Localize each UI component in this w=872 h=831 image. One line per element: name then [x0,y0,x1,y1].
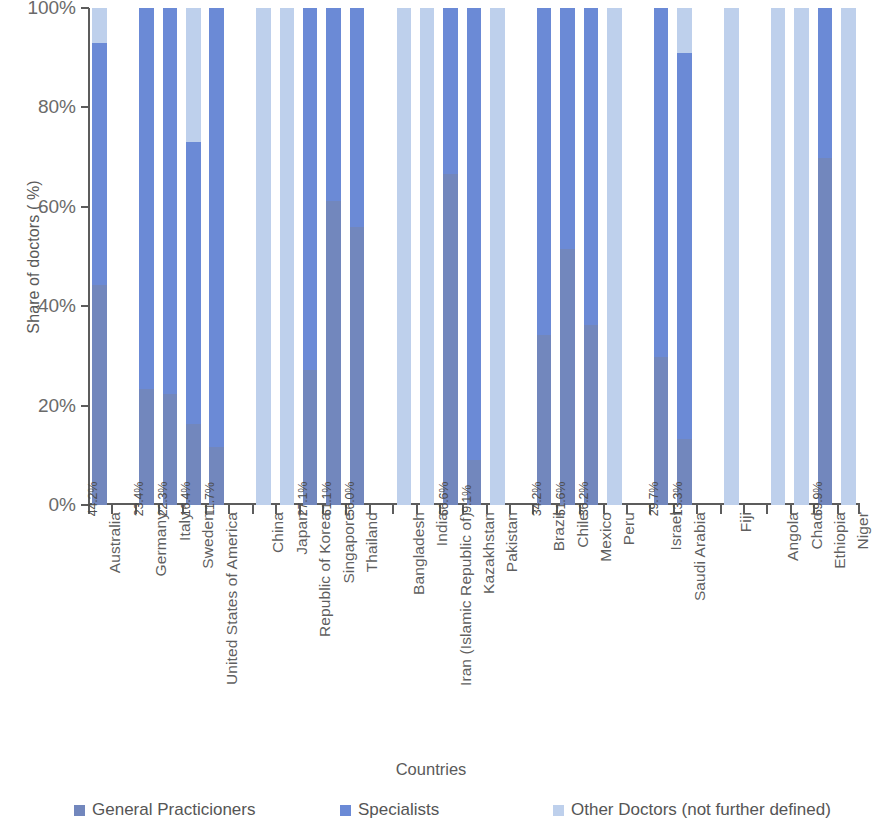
x-axis-tick-label: Chad [808,512,826,549]
bar-segment-gp[interactable] [326,201,341,505]
bar-stack[interactable] [303,8,318,505]
bar-segment-ot[interactable] [397,8,412,505]
bar-segment-gp[interactable] [163,394,178,505]
bar-stack[interactable] [560,8,575,505]
y-axis-tick [81,7,89,9]
bar-segment-gp[interactable] [92,285,107,505]
bar-segment-sp[interactable] [443,8,458,174]
x-axis-tick-label: Brazil [550,512,568,551]
legend-item[interactable]: Specialists [340,800,439,820]
y-axis-title: Share of doctors ( %) [25,127,43,387]
x-axis-tick-label: Ethiopia [831,512,849,569]
bar-segment-gp[interactable] [467,460,482,505]
legend-label: Specialists [358,800,439,820]
bar-segment-gp[interactable] [818,158,833,505]
bar-segment-gp[interactable] [654,357,669,505]
plot-inner: 0%20%40%60%80%100%44.2%23.4%22.3%16.4%11… [88,8,860,505]
bar-stack[interactable] [841,8,856,505]
bar-stack[interactable] [490,8,505,505]
bar-segment-gp[interactable] [209,447,224,505]
y-axis-tick [81,405,89,407]
x-axis-tick-label: India [433,512,451,546]
bar-segment-gp[interactable] [350,227,365,505]
bar-segment-ot[interactable] [92,8,107,43]
bar-segment-gp[interactable] [677,439,692,505]
bar-stack[interactable] [467,8,482,505]
bar-segment-gp[interactable] [560,249,575,505]
x-axis-title: Countries [0,760,862,779]
y-axis-tick [81,106,89,108]
x-axis-tick-label: Pakistan [503,512,521,572]
bar-segment-sp[interactable] [350,8,365,227]
bar-segment-sp[interactable] [303,8,318,370]
bar-segment-gp[interactable] [537,335,552,505]
bar-segment-sp[interactable] [209,8,224,447]
bar-segment-sp[interactable] [326,8,341,201]
bar-stack[interactable] [818,8,833,505]
x-axis-tick-label: Niger [854,512,872,550]
bar-segment-ot[interactable] [280,8,295,505]
bar-stack[interactable] [397,8,412,505]
legend-item[interactable]: Other Doctors (not further defined) [553,800,831,820]
x-axis-tick-label: Bangladesh [410,512,428,595]
bar-segment-ot[interactable] [841,8,856,505]
bar-segment-sp[interactable] [560,8,575,249]
legend-label: General Practicioners [92,800,255,820]
x-axis-tick-label: Saudi Arabia [691,512,709,601]
x-axis-tick-label: Japan [293,512,311,555]
bar-stack[interactable] [92,8,107,505]
bar-segment-gp[interactable] [303,370,318,505]
bar-segment-sp[interactable] [163,8,178,394]
bar-stack[interactable] [186,8,201,505]
bar-segment-sp[interactable] [139,8,154,389]
bar-segment-gp[interactable] [584,325,599,505]
bar-segment-sp[interactable] [818,8,833,158]
legend-item[interactable]: General Practicioners [74,800,255,820]
bar-segment-ot[interactable] [256,8,271,505]
bar-stack[interactable] [677,8,692,505]
bar-stack[interactable] [163,8,178,505]
x-axis-tick-label: Iran (Islamic Republic of) [457,512,475,686]
bar-stack[interactable] [794,8,809,505]
y-axis-tick-label: 60% [4,197,76,216]
bar-stack[interactable] [280,8,295,505]
bar-segment-sp[interactable] [584,8,599,325]
bar-stack[interactable] [209,8,224,505]
bar-segment-sp[interactable] [677,53,692,439]
bar-segment-ot[interactable] [771,8,786,505]
bar-segment-ot[interactable] [490,8,505,505]
bar-stack[interactable] [537,8,552,505]
x-axis-tick-label: Thailand [363,512,381,572]
bar-stack[interactable] [326,8,341,505]
bar-stack[interactable] [443,8,458,505]
bar-stack[interactable] [139,8,154,505]
bar-stack[interactable] [607,8,622,505]
bar-segment-gp[interactable] [139,389,154,505]
bar-segment-sp[interactable] [186,142,201,423]
bar-segment-ot[interactable] [724,8,739,505]
bar-segment-gp[interactable] [443,174,458,505]
bar-stack[interactable] [256,8,271,505]
bar-segment-ot[interactable] [186,8,201,142]
bar-segment-ot[interactable] [607,8,622,505]
x-axis-tick-label: Fiji [737,512,755,532]
legend-label: Other Doctors (not further defined) [571,800,831,820]
bar-segment-sp[interactable] [92,43,107,286]
bar-stack[interactable] [654,8,669,505]
bar-stack[interactable] [420,8,435,505]
bar-stack[interactable] [350,8,365,505]
bar-stack[interactable] [724,8,739,505]
bar-segment-sp[interactable] [654,8,669,357]
bar-segment-gp[interactable] [186,424,201,506]
y-axis-tick-label: 100% [4,0,76,17]
x-axis-tick-label: China [269,512,287,553]
bar-segment-sp[interactable] [537,8,552,335]
y-axis-line [88,8,90,505]
bar-segment-ot[interactable] [420,8,435,505]
bar-stack[interactable] [771,8,786,505]
bar-segment-sp[interactable] [467,8,482,460]
bar-segment-ot[interactable] [794,8,809,505]
bar-segment-ot[interactable] [677,8,692,53]
bar-stack[interactable] [584,8,599,505]
